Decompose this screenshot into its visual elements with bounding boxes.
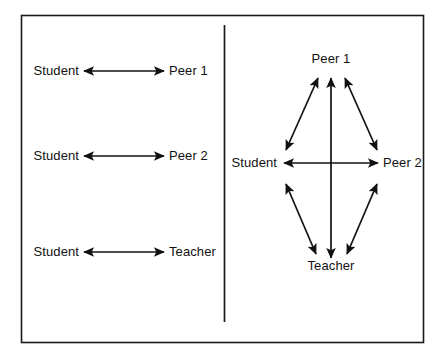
node-label-student-peer1-left: Student bbox=[33, 63, 79, 78]
node-label-peer2-left: Peer 2 bbox=[169, 148, 208, 163]
diagram-canvas: Student Peer 1 Student Peer 2 Student Te… bbox=[0, 0, 442, 359]
edge-student-peer1 bbox=[286, 78, 318, 150]
node-label-student-teacher-left: Student bbox=[33, 244, 79, 259]
left-row-student-peer2: Student Peer 2 bbox=[33, 148, 207, 163]
right-panel: Peer 1 Student Peer 2 Teacher bbox=[231, 51, 421, 273]
left-row-student-peer1: Student Peer 1 bbox=[33, 63, 207, 78]
diagram-figure: Student Peer 1 Student Peer 2 Student Te… bbox=[0, 0, 442, 359]
node-label-teacher-right: Teacher bbox=[308, 258, 356, 273]
figure-border bbox=[22, 16, 424, 343]
node-label-peer1-right: Peer 1 bbox=[312, 51, 351, 66]
left-row-student-teacher: Student Teacher bbox=[33, 244, 216, 259]
node-label-peer2-right: Peer 2 bbox=[383, 155, 422, 170]
node-label-peer1-left: Peer 1 bbox=[169, 63, 208, 78]
left-panel: Student Peer 1 Student Peer 2 Student Te… bbox=[33, 63, 216, 259]
edge-peer2-teacher bbox=[347, 184, 377, 254]
node-label-student-peer2-left: Student bbox=[33, 148, 79, 163]
node-label-student-right: Student bbox=[231, 155, 277, 170]
node-label-teacher-left: Teacher bbox=[169, 244, 217, 259]
edge-student-teacher bbox=[286, 184, 316, 254]
edge-peer2-peer1 bbox=[345, 78, 377, 150]
